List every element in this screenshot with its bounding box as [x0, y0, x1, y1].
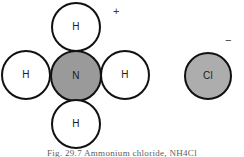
atom-label-nitrogen: N	[72, 71, 79, 81]
atom-label-hydrogen-top: H	[72, 22, 79, 32]
atom-chlorine: Cl	[184, 52, 232, 100]
atom-label-hydrogen-right: H	[121, 70, 128, 80]
figure-caption-text: Fig. 29.7 Ammonium chloride, NH4Cl	[0, 148, 244, 157]
atom-label-hydrogen-bottom: H	[72, 119, 79, 129]
atom-hydrogen-bottom: H	[51, 99, 101, 149]
figure-caption: Fig. 29.7 Ammonium chloride, NH4Cl	[0, 148, 244, 157]
atom-hydrogen-top: H	[51, 2, 101, 52]
atom-hydrogen-right: H	[100, 50, 150, 100]
charge-negative: −	[225, 35, 231, 46]
atom-label-hydrogen-left: H	[22, 70, 29, 80]
chemistry-figure: H H H H N + Cl − Fig. 29.7 Ammonium chlo…	[0, 0, 244, 157]
atom-label-chlorine: Cl	[203, 71, 213, 81]
charge-positive: +	[113, 6, 119, 17]
atom-hydrogen-left: H	[1, 50, 51, 100]
atom-nitrogen-center: N	[50, 50, 102, 102]
